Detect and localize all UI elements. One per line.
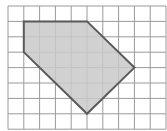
shaded-polygon bbox=[24, 21, 135, 113]
grid-diagram bbox=[0, 0, 167, 131]
